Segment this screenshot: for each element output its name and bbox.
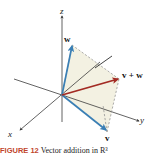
axis-label-x: x [8,130,12,139]
axis-label-z: z [60,7,64,16]
figure-caption: FIGURE 12 Vector addition in R³ [0,146,162,153]
edge-tick-segment [95,56,112,68]
vector-label-v-plus-w: v + w [122,71,143,80]
vector-label-w: w [64,35,71,44]
y-axis-negative-line [14,79,62,95]
axis-label-y: y [140,116,144,125]
vector-label-v: v [105,134,110,143]
parallelogram-shaded-region [62,45,119,132]
figure-caption-text: Vector addition in R³ [41,146,108,153]
vector-addition-figure: z y x w v v + w FIGURE 12 Vector additio… [0,0,162,153]
figure-caption-number: FIGURE 12 [0,146,39,153]
